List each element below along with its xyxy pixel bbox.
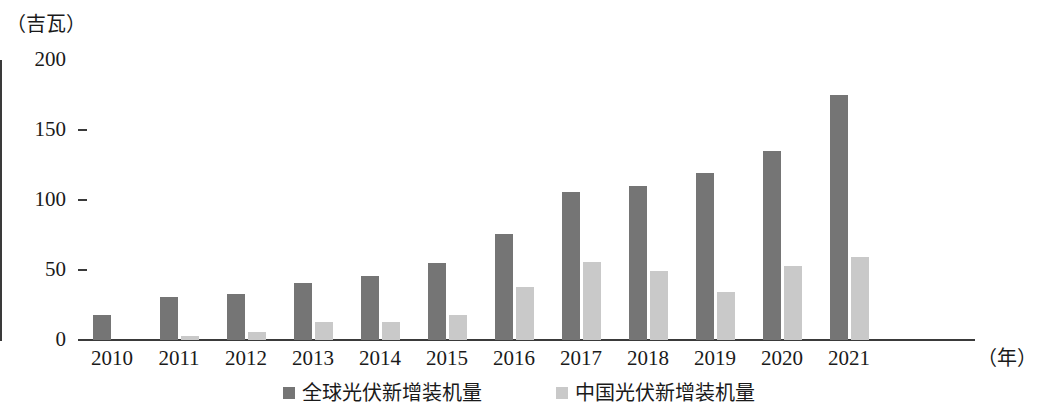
bar-china-2016: [516, 287, 534, 340]
y-axis-tick-label-50: 50: [0, 259, 66, 280]
y-axis-tick-label-200: 200: [0, 49, 66, 70]
bar-global-2017: [562, 192, 580, 340]
legend-swatch-icon: [556, 387, 568, 399]
legend-item-china: 中国光伏新增装机量: [556, 382, 755, 404]
y-axis-tick-label-0: 0: [0, 329, 66, 350]
legend-item-global: 全球光伏新增装机量: [283, 382, 482, 404]
x-axis-unit-label: （年）: [977, 346, 1037, 370]
bar-global-2016: [495, 234, 513, 340]
bar-global-2013: [294, 283, 312, 340]
bar-china-2013: [315, 322, 333, 340]
bar-china-2021: [851, 257, 869, 340]
y-axis-tick-label-150: 150: [0, 119, 66, 140]
bar-global-2015: [428, 263, 446, 340]
bar-china-2015: [449, 315, 467, 340]
chart-legend: 全球光伏新增装机量中国光伏新增装机量: [0, 382, 1038, 404]
bar-china-2012: [248, 332, 266, 340]
x-axis-tick-label-2021: 2021: [809, 346, 889, 370]
y-axis-tick-150: [78, 129, 87, 131]
y-axis-tick-50: [78, 269, 87, 271]
bar-global-2018: [629, 186, 647, 340]
bar-global-2010: [93, 315, 111, 340]
legend-label: 全球光伏新增装机量: [302, 382, 482, 404]
y-axis-unit-label: （吉瓦）: [6, 8, 86, 37]
y-axis-tick-100: [78, 199, 87, 201]
bar-china-2020: [784, 266, 802, 340]
legend-swatch-icon: [283, 387, 295, 399]
legend-label: 中国光伏新增装机量: [575, 382, 755, 404]
bar-global-2011: [160, 297, 178, 340]
bar-global-2021: [830, 95, 848, 340]
bar-global-2012: [227, 294, 245, 340]
bar-global-2014: [361, 276, 379, 340]
bar-chart: （吉瓦） 200150100500 2010201120122013201420…: [0, 0, 1038, 411]
bar-global-2019: [696, 173, 714, 340]
bar-china-2011: [181, 336, 199, 340]
bar-china-2019: [717, 292, 735, 340]
y-axis-tick-label-100: 100: [0, 189, 66, 210]
bar-china-2018: [650, 271, 668, 340]
bar-china-2014: [382, 322, 400, 340]
bar-global-2020: [763, 151, 781, 340]
bar-china-2017: [583, 262, 601, 340]
